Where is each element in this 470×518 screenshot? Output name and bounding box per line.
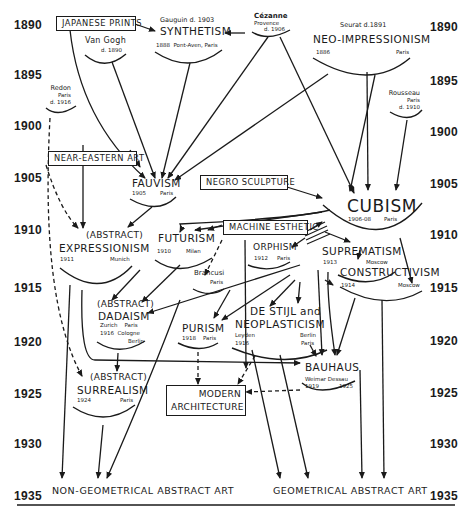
brancusi-name: Brancusi <box>194 269 224 277</box>
box-japanese-prints: JAPANESE PRINTS <box>56 16 136 31</box>
year-label-right-1930: 1930 <box>430 437 458 451</box>
cubism-year: 1906-08 <box>348 216 371 222</box>
synthetism-title: SYNTHETISM <box>160 25 231 37</box>
neo-impressionism-title: NEO-IMPRESSIONISM <box>313 33 430 45</box>
outcome-non-geometrical-abstract-art: NON-GEOMETRICAL ABSTRACT ART <box>52 485 234 496</box>
purism-place: Paris <box>203 335 216 341</box>
year-label-left-1930: 1930 <box>14 437 42 451</box>
constructivism-title: CONSTRUCTIVISM <box>340 266 440 278</box>
year-label-right-1935: 1935 <box>430 489 458 503</box>
gauguin-name: Gauguin d. 1903 <box>160 16 214 24</box>
dadaism-title: DADAISM <box>98 310 150 322</box>
year-label-left-1935: 1935 <box>14 489 42 503</box>
redon-date: d. 1916 <box>45 99 71 105</box>
neo-impressionism-year: 1886 <box>316 49 330 55</box>
year-label-left-1895: 1895 <box>14 68 42 82</box>
year-label-right-1900: 1900 <box>430 125 458 139</box>
orphism-year: 1912 <box>254 255 268 261</box>
surrealism-year: 1924 <box>77 397 91 403</box>
cubism-title: CUBISM <box>347 196 417 216</box>
year-label-left-1915: 1915 <box>14 281 42 295</box>
year-label-left-1910: 1910 <box>14 223 42 237</box>
cubism-place: Paris <box>384 216 397 222</box>
de-stijl-title-line1: DE STIJL and <box>250 305 321 317</box>
futurism-year: 1910 <box>157 248 171 254</box>
neo-impressionism-place: Paris <box>396 49 409 55</box>
expressionism-place: Munich <box>110 256 130 262</box>
suprematism-place: Moscow <box>366 259 388 265</box>
orphism-place: Paris <box>277 255 290 261</box>
box-machine-esthetic: MACHINE ESTHETIC <box>223 220 308 235</box>
dadaism-places-1: Zurich Paris <box>100 322 138 328</box>
year-label-left-1890: 1890 <box>14 18 42 32</box>
synthetism-year-place: 1888 Pont-Aven, Paris <box>156 42 218 48</box>
bauhaus-places: Weimar Dessau <box>305 376 348 382</box>
modern-architecture-line1: MODERN <box>171 388 241 401</box>
cezanne-date: d. 1906 <box>264 26 285 32</box>
purism-year: 1918 <box>182 335 196 341</box>
dadaism-places-3: Berlin <box>128 338 144 344</box>
futurism-place: Milan <box>186 248 201 254</box>
seurat-name: Seurat d.1891 <box>340 21 386 29</box>
redon-name: Redon <box>45 84 71 92</box>
year-label-left-1920: 1920 <box>14 335 42 349</box>
suprematism-year: 1913 <box>323 259 337 265</box>
year-label-left-1925: 1925 <box>14 387 42 401</box>
year-label-left-1905: 1905 <box>14 171 42 185</box>
outcome-geometrical-abstract-art: GEOMETRICAL ABSTRACT ART <box>273 485 428 496</box>
fauvism-year: 1905 <box>132 190 146 196</box>
year-label-right-1915: 1915 <box>430 281 458 295</box>
surrealism-title: SURREALISM <box>77 384 148 396</box>
year-label-right-1925: 1925 <box>430 386 458 400</box>
rousseau-name: Rousseau <box>386 89 420 97</box>
modern-architecture-line2: ARCHITECTURE <box>171 401 241 414</box>
dadaism-prefix: (ABSTRACT) <box>97 299 154 309</box>
van-gogh-date: d. 1890 <box>101 47 122 53</box>
surrealism-prefix: (ABSTRACT) <box>90 372 147 382</box>
box-near-eastern-art: NEAR-EASTERN ART <box>48 151 137 166</box>
futurism-title: FUTURISM <box>158 232 215 244</box>
purism-title: PURISM <box>182 322 225 334</box>
cezanne-name: Cézanne <box>254 12 287 20</box>
de-stijl-place-1: Leyden <box>235 332 255 338</box>
year-label-right-1905: 1905 <box>430 177 458 191</box>
dadaism-places-2: 1916 Cologne <box>100 330 140 336</box>
suprematism-title: SUPREMATISM <box>322 245 402 257</box>
bauhaus-year-2: 1925 <box>339 383 353 389</box>
de-stijl-place-2: Berlin <box>300 332 316 338</box>
redon-place: Paris <box>45 92 71 98</box>
de-stijl-year: 1916 <box>235 340 249 346</box>
fauvism-place: Paris <box>160 190 173 196</box>
orphism-title: ORPHISM <box>253 242 297 252</box>
year-label-right-1910: 1910 <box>430 228 458 242</box>
year-label-right-1895: 1895 <box>430 74 458 88</box>
surrealism-place: Paris <box>120 397 133 403</box>
expressionism-prefix: (ABSTRACT) <box>86 230 143 240</box>
box-modern-architecture: MODERN ARCHITECTURE <box>166 385 246 416</box>
rousseau-place: Paris <box>386 97 420 103</box>
de-stijl-place-3: Paris <box>301 340 314 346</box>
box-negro-sculpture: NEGRO SCULPTURE <box>200 175 288 190</box>
bauhaus-title: BAUHAUS <box>305 361 359 373</box>
van-gogh-name: Van Gogh <box>85 36 126 45</box>
constructivism-year: 1914 <box>341 282 355 288</box>
rousseau-date: d. 1910 <box>386 104 420 110</box>
expressionism-year: 1911 <box>60 256 74 262</box>
expressionism-title: EXPRESSIONISM <box>59 242 150 254</box>
year-label-left-1900: 1900 <box>14 119 42 133</box>
year-label-right-1920: 1920 <box>430 334 458 348</box>
bauhaus-year-1: 1919 <box>305 383 319 389</box>
fauvism-title: FAUVISM <box>132 177 181 189</box>
constructivism-place: Moscow <box>398 282 420 288</box>
de-stijl-title-line2: NEOPLASTICISM <box>235 318 325 330</box>
year-label-right-1890: 1890 <box>430 20 458 34</box>
brancusi-place: Paris <box>210 279 223 285</box>
